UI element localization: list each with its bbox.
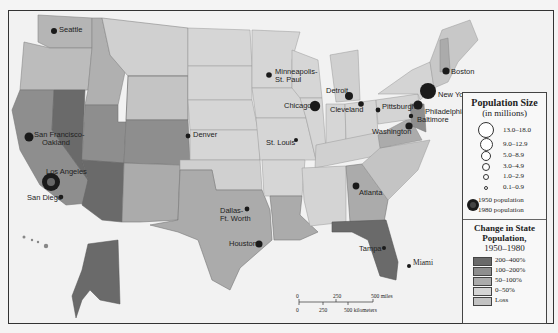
city-label-pittsburgh: Pittsburgh <box>382 103 416 111</box>
city-label-chicago: Chicago <box>284 102 312 110</box>
city-label-detroit: Detroit <box>326 87 348 95</box>
city-label-philadelphia: Philadelphia <box>425 108 466 116</box>
city-label-boston: Boston <box>451 68 474 76</box>
city-label-washington: Washington <box>372 128 411 136</box>
city-label-minneapolis: Minneapolis-St. Paul <box>275 68 318 84</box>
city-label-dallas: Dallas-Ft. Worth <box>220 207 251 223</box>
state-north-dakota <box>188 28 252 66</box>
legend-change-title: Change in State Population, 1950–1980 <box>463 223 546 253</box>
state-arizona <box>82 160 124 222</box>
state-new-england <box>430 20 478 88</box>
state-new-hampshire <box>440 38 450 72</box>
legend-population-years: 1950 population 1980 population <box>463 195 546 217</box>
legend-panel: Population Size (in millions) 13.0–18.0 … <box>462 92 547 324</box>
city-label-san-francisco: San Francisco-Oakland <box>34 131 84 147</box>
scale-km-0: 0 <box>296 307 299 313</box>
state-wyoming <box>126 76 188 120</box>
swatch-icon <box>473 277 492 286</box>
state-arkansas <box>262 160 305 196</box>
size-circle-icon <box>483 174 489 180</box>
scale-mile-0: 0 <box>296 293 299 299</box>
city-label-atlanta: Atlanta <box>359 189 382 197</box>
population-dot-inner-icon <box>470 202 476 208</box>
city-label-miami: Miami <box>413 259 433 267</box>
legend-change-row: 50–100% <box>473 276 546 286</box>
city-label-houston: Houston <box>229 240 257 248</box>
swatch-icon <box>473 287 492 296</box>
state-oregon <box>20 42 92 90</box>
state-colorado <box>124 120 190 165</box>
legend-size-row: 3.0–4.9 <box>463 161 546 172</box>
scale-km-250: 250 <box>319 307 327 313</box>
city-label-tampa: Tampa <box>359 245 382 253</box>
state-hawaii <box>23 236 26 239</box>
swatch-icon <box>473 257 492 266</box>
legend-size-row: 9.0–12.9 <box>463 137 546 150</box>
scale-bar <box>299 299 373 305</box>
legend-change-row: Loss <box>473 296 546 306</box>
legend-change-row: 0–50% <box>473 286 546 296</box>
size-circle-icon <box>484 186 488 190</box>
legend-size-row: 1.0–2.9 <box>463 171 546 182</box>
scale-mile-250: 250 <box>333 293 341 299</box>
city-label-baltimore: Baltimore <box>417 116 449 124</box>
size-circle-icon <box>481 151 491 161</box>
scale-km-500: 500 kilometers <box>344 307 377 313</box>
state-mississippi-alabama <box>302 166 346 226</box>
state-nebraska <box>188 100 258 130</box>
scale-mile-500: 500 miles <box>371 293 393 299</box>
state-alaska <box>72 240 120 318</box>
city-label-cleveland: Cleveland <box>330 106 363 114</box>
swatch-icon <box>473 297 492 306</box>
city-label-los-angeles: Los Angeles <box>46 168 87 176</box>
legend-population-title: Population Size (in millions) <box>463 98 546 118</box>
city-label-st-louis: St. Louis <box>266 139 295 147</box>
legend-size-row: 0.1–0.9 <box>463 182 546 193</box>
city-label-san-diego: San Diego <box>27 194 62 202</box>
swatch-icon <box>473 267 492 276</box>
legend-size-row: 5.0–8.9 <box>463 150 546 161</box>
state-south-dakota <box>188 66 252 100</box>
size-circle-icon <box>478 122 494 138</box>
city-label-denver: Denver <box>193 131 217 139</box>
legend-change-row: 100–200% <box>473 266 546 276</box>
legend-size-row: 13.0–18.0 <box>463 122 546 137</box>
city-label-seattle: Seattle <box>59 26 82 34</box>
state-utah <box>82 105 126 163</box>
legend-change-row: 200–400% <box>473 256 546 266</box>
state-new-mexico <box>122 163 180 222</box>
size-circle-icon <box>482 163 490 171</box>
